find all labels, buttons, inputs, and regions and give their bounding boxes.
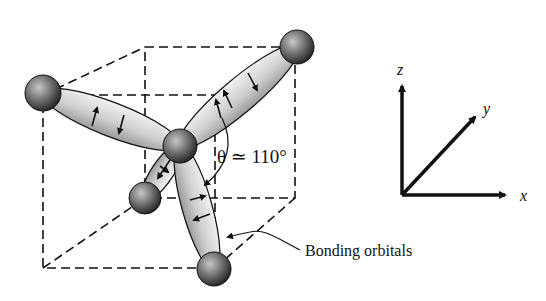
z-axis-label: z	[396, 61, 404, 78]
angle-label: θ ≃ 110°	[217, 146, 287, 167]
bonding-orbitals-label: Bonding orbitals	[305, 242, 412, 260]
atom-lower-left	[129, 182, 161, 214]
atom-bottom	[197, 252, 231, 286]
atom-center	[163, 129, 197, 163]
atom-left	[25, 75, 61, 111]
x-axis-label: x	[519, 187, 527, 204]
y-axis-label: y	[481, 100, 491, 118]
y-axis	[402, 117, 475, 195]
tetrahedral-bonding-diagram: θ ≃ 110° Bonding orbitals z y x	[0, 0, 546, 301]
atom-top-right	[280, 30, 314, 64]
